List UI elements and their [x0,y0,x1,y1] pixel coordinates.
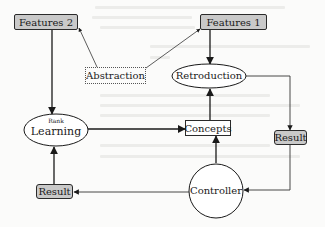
diagram-canvas: Features 2 Features 1 Abstraction Retrod… [0,0,325,227]
result-right-label: Result [274,132,306,143]
controller-node[interactable]: Controller [189,186,243,196]
edge-result-controller [244,145,290,190]
retroduction-node[interactable]: Retroduction [172,71,246,81]
controller-label: Controller [190,185,242,196]
result-left-label: Result [38,186,70,197]
learning-sublabel: Rank [24,118,88,124]
features2-label: Features 2 [19,17,73,28]
result-left-node[interactable]: Result [36,184,73,199]
features1-label: Features 1 [206,17,260,28]
features2-node[interactable]: Features 2 [14,14,78,30]
edge-retroduction-result [246,76,290,130]
concepts-label: Concepts [184,123,231,134]
learning-node[interactable]: Rank Learning [24,118,88,137]
result-right-node[interactable]: Result [274,130,307,145]
edge-abstraction-features1 [146,29,200,68]
edge-abstraction-features2 [79,28,97,67]
abstraction-label: Abstraction [86,70,145,81]
concepts-node[interactable]: Concepts [185,120,231,136]
abstraction-node[interactable]: Abstraction [85,67,146,84]
retroduction-label: Retroduction [176,70,242,81]
features1-node[interactable]: Features 1 [200,14,267,30]
learning-label: Learning [24,126,88,137]
